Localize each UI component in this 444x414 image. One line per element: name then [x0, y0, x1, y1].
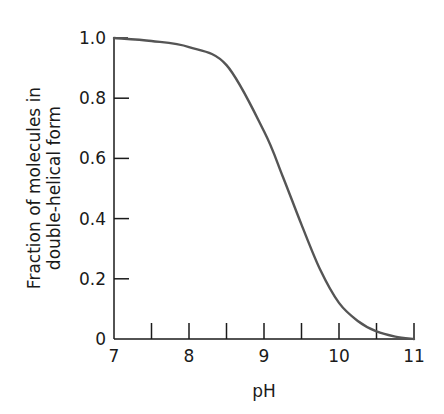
y-tick-label: 0.6 — [79, 148, 106, 168]
y-axis-title: Fraction of molecules in double-helical … — [24, 87, 64, 289]
y-tick-label: 0.2 — [79, 269, 106, 289]
axes: 00.20.40.60.81.0 7891011 — [79, 28, 425, 366]
y-tick-label: 0.4 — [79, 209, 106, 229]
chart: 00.20.40.60.81.0 7891011 pH Fraction of … — [0, 0, 444, 414]
x-tick-label: 7 — [109, 346, 120, 366]
data-curve — [114, 38, 414, 339]
x-tick-label: 10 — [328, 346, 350, 366]
y-axis-title-line-2: double-helical form — [44, 106, 64, 270]
x-tick-label: 9 — [259, 346, 270, 366]
y-axis-title-line-1: Fraction of molecules in — [24, 87, 44, 289]
y-tick-label: 0.8 — [79, 88, 106, 108]
x-tick-label: 11 — [403, 346, 425, 366]
x-tick-label: 8 — [184, 346, 195, 366]
y-ticks: 00.20.40.60.81.0 — [79, 28, 129, 349]
x-ticks: 7891011 — [109, 323, 425, 366]
y-tick-label: 1.0 — [79, 28, 106, 48]
x-axis-title: pH — [252, 381, 276, 401]
y-tick-label: 0 — [95, 329, 106, 349]
